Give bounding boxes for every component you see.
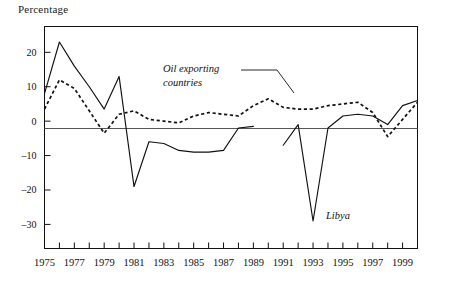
y-tick-label: –20 <box>21 184 37 195</box>
chart-plot-area: 20100–10–20–30 1975197719791981198319851… <box>0 0 451 299</box>
series-line-libya <box>45 42 254 187</box>
x-tick-label: 1979 <box>94 257 115 268</box>
libya-label: Libya <box>325 210 350 221</box>
y-tick-label: –30 <box>21 219 37 230</box>
y-tick-label: 20 <box>27 47 37 58</box>
y-tick-label: 10 <box>27 81 37 92</box>
x-tick-label: 1983 <box>153 257 174 268</box>
x-tick-label: 1995 <box>332 257 353 268</box>
series-line-libya <box>283 101 417 221</box>
oil-exporting-label-line1: Oil exporting <box>163 63 219 74</box>
x-tick-label: 1991 <box>273 257 294 268</box>
x-tick-label: 1975 <box>34 257 55 268</box>
x-tick-label: 1997 <box>362 257 383 268</box>
x-tick-label: 1993 <box>303 257 324 268</box>
oil-exporting-label-line2: countries <box>163 77 202 88</box>
y-tick-label: 0 <box>32 116 37 127</box>
x-tick-label: 1977 <box>64 257 85 268</box>
x-axis-ticks: 1975197719791981198319851987198919911993… <box>34 243 413 268</box>
chart-container: Percentage 20100–10–20–30 19751977197919… <box>0 0 451 299</box>
x-tick-label: 1989 <box>243 257 264 268</box>
y-tick-label: –10 <box>21 150 37 161</box>
y-axis-ticks: 20100–10–20–30 <box>21 47 51 230</box>
x-tick-label: 1985 <box>183 257 204 268</box>
plot-frame <box>45 27 418 249</box>
chart-series-group <box>45 42 418 221</box>
x-tick-label: 1981 <box>124 257 145 268</box>
oil-exporting-leader-line <box>241 70 294 93</box>
x-tick-label: 1987 <box>213 257 234 268</box>
x-tick-label: 1999 <box>392 257 413 268</box>
